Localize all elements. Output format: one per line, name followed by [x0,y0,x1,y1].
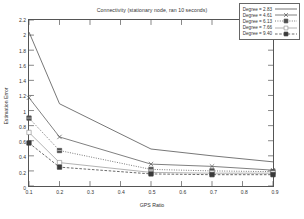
legend-key [275,18,297,24]
y-tick-label: 1.2 [19,93,26,99]
data-point-marker [149,172,153,176]
data-point-marker [27,130,31,134]
legend-label: Degree = 9.40 [243,31,272,36]
x-tick-label: 0.8 [241,189,248,195]
legend-item-1[interactable]: Degree = 4.61 [243,12,297,18]
y-tick-label: 0.4 [19,154,26,160]
x-tick-label: 0.9 [272,189,279,195]
chart-figure: Connectivity (stationary node, ran 10 se… [0,0,304,219]
x-tick-label: 0.1 [26,189,33,195]
y-tick-label: 1 [23,109,26,115]
plot-area: 00.20.40.60.811.21.41.61.822.2 0.10.20.3… [28,19,274,187]
plot-canvas [29,20,273,186]
y-tick-label: 0.6 [19,139,26,145]
y-tick-label: 2 [23,32,26,38]
data-point-marker [271,173,275,177]
x-axis-label: GPS Ratio [0,202,304,208]
legend-item-0[interactable]: Degree = 2.83 [243,6,297,12]
legend-key [275,31,297,37]
legend-label: Degree = 2.83 [243,7,272,12]
x-tick-label: 0.7 [210,189,217,195]
data-point-marker [57,148,61,152]
data-point-marker [27,116,31,120]
x-tick-label: 0.2 [56,189,63,195]
legend-label: Degree = 6.13 [243,19,272,24]
chart-legend: Degree = 2.83Degree = 4.61Degree = 6.13D… [239,3,300,40]
data-point-marker [57,135,61,139]
y-tick-label: 1.4 [19,78,26,84]
legend-item-2[interactable]: Degree = 6.13 [243,18,297,24]
legend-key [275,12,297,18]
y-tick-label: 1.6 [19,63,26,69]
legend-item-3[interactable]: Degree = 7.66 [243,25,297,31]
y-tick-label: 0.8 [19,124,26,130]
y-tick-label: 0.2 [19,170,26,176]
data-point-marker [27,96,31,100]
data-point-marker [27,141,31,145]
legend-label: Degree = 4.61 [243,13,272,18]
x-tick-label: 0.4 [118,189,125,195]
x-tick-label: 0.5 [149,189,156,195]
x-tick-label: 0.3 [87,189,94,195]
data-point-marker [57,165,61,169]
legend-key [275,25,297,31]
legend-item-4[interactable]: Degree = 9.40 [243,31,297,37]
y-tick-label: 1.8 [19,48,26,54]
y-axis-label: Estimation Error [3,76,9,136]
x-tick-label: 0.6 [179,189,186,195]
legend-label: Degree = 7.66 [243,25,272,30]
data-point-marker [57,160,61,164]
y-tick-label: 2.2 [19,17,26,23]
legend-key [275,6,297,12]
series-line-0 [29,32,273,162]
data-point-marker [210,173,214,177]
series-line-1 [29,98,273,170]
